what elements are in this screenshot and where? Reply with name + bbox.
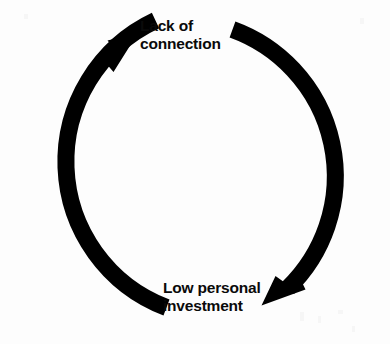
- node-label-lack-of-connection-line2: connection: [140, 35, 221, 53]
- node-label-low-personal-investment-line2: investment: [163, 297, 261, 315]
- node-label-low-personal-investment: Low personal investment: [163, 279, 261, 315]
- node-label-lack-of-connection-line1: Lack of: [140, 17, 221, 35]
- cycle-diagram: Lack of connection Low personal investme…: [0, 0, 390, 344]
- node-label-low-personal-investment-line1: Low personal: [163, 279, 261, 297]
- arrowhead-to-low-personal-investment: [262, 271, 306, 306]
- cycle-arc-right: [233, 30, 336, 289]
- node-label-lack-of-connection: Lack of connection: [140, 17, 221, 53]
